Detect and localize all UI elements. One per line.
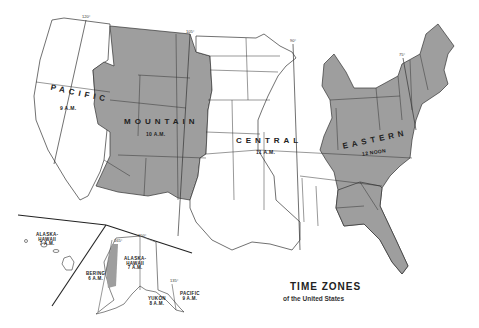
map-subtitle: of the United States — [283, 295, 344, 302]
inset-label-yukon: YUKON 8 A.M. — [148, 297, 166, 306]
zone-time-central: 11 A.M. — [256, 150, 275, 155]
inset-bering-time: 6 A.M. — [86, 277, 105, 282]
meridian-label-120: 120° — [82, 14, 90, 19]
inset-pacific-time: 9 A.M. — [180, 297, 200, 302]
meridian-label-165: 165° — [114, 238, 122, 243]
zone-label-central: CENTRAL — [236, 137, 302, 145]
zone-time-mountain: 10 A.M. — [146, 132, 165, 137]
inset-label-bering: BERING 6 A.M. — [86, 272, 105, 281]
inset-label-alaska-hawaii: ALASKA- HAWAII 7 A.M. — [124, 257, 146, 271]
inset-label-pacific: PACIFIC 9 A.M. — [180, 292, 200, 301]
meridian-label-135: 135° — [170, 278, 178, 283]
zone-time-pacific: 9 A.M. — [60, 106, 76, 111]
inset-yukon-time: 8 A.M. — [148, 302, 166, 307]
zone-label-mountain: MOUNTAIN — [124, 118, 199, 126]
inset-alaska-time: 7 A.M. — [124, 266, 146, 271]
meridian-label-75: 75° — [399, 52, 405, 57]
map-title: TIME ZONES — [290, 281, 361, 292]
meridian-label-150: 150° — [138, 233, 146, 238]
inset-label-hawaii: ALASKA- HAWAII 7 A.M. — [36, 233, 58, 247]
inset-hawaii-time: 7 A.M. — [36, 242, 58, 247]
mountain-zone-region — [93, 26, 212, 200]
meridian-label-90: 90° — [290, 38, 296, 43]
meridian-label-105: 105° — [186, 29, 194, 34]
bering-zone-strip — [106, 244, 118, 288]
time-zone-map — [0, 0, 479, 328]
eastern-zone-south — [336, 182, 408, 274]
